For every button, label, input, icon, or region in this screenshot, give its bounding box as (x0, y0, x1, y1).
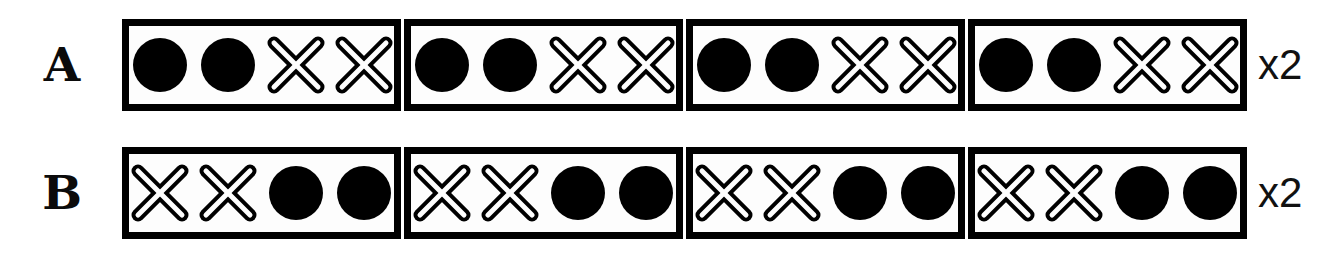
outlined-x-icon (199, 164, 257, 222)
outlined-x-icon (549, 36, 607, 94)
filled-circle-icon (1045, 36, 1103, 94)
outlined-x-icon (695, 164, 753, 222)
sequence-row-a: A x2 (0, 19, 1324, 111)
filled-circle-icon (335, 164, 393, 222)
outlined-x-icon (1113, 36, 1171, 94)
sequence-cell (404, 147, 683, 239)
outlined-x-icon (617, 36, 675, 94)
outlined-x-icon (831, 36, 889, 94)
symbol-sequence-diagram: A x2 B x2 (0, 0, 1324, 261)
row-a-multiplier: x2 (1258, 19, 1302, 111)
filled-circle-icon (1181, 164, 1239, 222)
sequence-cell (686, 19, 965, 111)
row-b-cells (122, 147, 1247, 239)
sequence-cell (404, 19, 683, 111)
outlined-x-icon (481, 164, 539, 222)
outlined-x-icon (1181, 36, 1239, 94)
outlined-x-icon (1045, 164, 1103, 222)
filled-circle-icon (617, 164, 675, 222)
filled-circle-icon (695, 36, 753, 94)
sequence-cell (122, 147, 401, 239)
filled-circle-icon (413, 36, 471, 94)
filled-circle-icon (131, 36, 189, 94)
sequence-cell (122, 19, 401, 111)
sequence-cell (968, 19, 1247, 111)
filled-circle-icon (899, 164, 957, 222)
outlined-x-icon (267, 36, 325, 94)
row-label-a: A (22, 19, 102, 111)
outlined-x-icon (977, 164, 1035, 222)
sequence-cell (968, 147, 1247, 239)
filled-circle-icon (267, 164, 325, 222)
sequence-cell (686, 147, 965, 239)
outlined-x-icon (131, 164, 189, 222)
filled-circle-icon (549, 164, 607, 222)
outlined-x-icon (413, 164, 471, 222)
filled-circle-icon (763, 36, 821, 94)
row-b-multiplier: x2 (1258, 147, 1302, 239)
row-a-cells (122, 19, 1247, 111)
outlined-x-icon (763, 164, 821, 222)
row-label-b: B (22, 147, 102, 239)
outlined-x-icon (335, 36, 393, 94)
outlined-x-icon (899, 36, 957, 94)
filled-circle-icon (199, 36, 257, 94)
filled-circle-icon (481, 36, 539, 94)
filled-circle-icon (977, 36, 1035, 94)
filled-circle-icon (1113, 164, 1171, 222)
sequence-row-b: B x2 (0, 147, 1324, 239)
filled-circle-icon (831, 164, 889, 222)
